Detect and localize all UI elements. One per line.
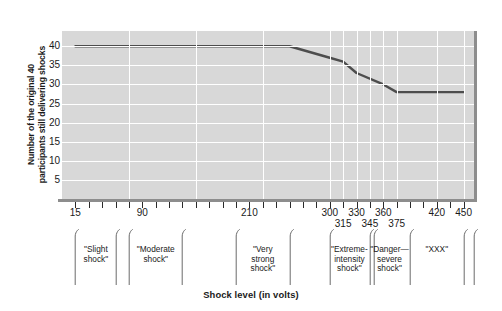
vertical-gridline: [343, 31, 344, 199]
horizontal-gridline: [62, 46, 477, 47]
category-divider: [286, 229, 295, 285]
y-axis-tick-label: 30: [49, 79, 60, 89]
vertical-gridline: [370, 31, 371, 199]
y-axis-tick-label: 20: [49, 118, 60, 128]
category-label: "Moderate shock": [137, 245, 175, 264]
vertical-gridline: [263, 31, 264, 199]
y-axis-title-line1: Number of the original 40: [26, 15, 37, 215]
category-divider: [460, 229, 469, 285]
x-axis-tick-label: 420: [428, 207, 445, 218]
horizontal-gridline: [62, 180, 477, 181]
x-axis-title: Shock level (in volts): [0, 289, 502, 300]
category-divider: [470, 229, 479, 285]
vertical-gridline: [129, 31, 130, 199]
category-divider: [232, 229, 241, 285]
category-label: "XXX": [426, 245, 449, 255]
horizontal-gridline: [62, 142, 477, 143]
y-axis-tick-label: 5: [54, 175, 60, 185]
x-axis-tick-label: 345: [362, 218, 379, 229]
category-divider: [125, 229, 134, 285]
vertical-gridline: [383, 31, 384, 199]
chart-figure: Number of the original 40 participants s…: [0, 0, 502, 311]
x-axis-tick-label: 330: [348, 207, 365, 218]
x-axis-tick-label: 210: [241, 207, 258, 218]
category-label: "Slight shock": [84, 245, 109, 264]
vertical-gridline: [464, 31, 465, 199]
horizontal-gridline: [62, 161, 477, 162]
y-axis-tick-label: 40: [49, 41, 60, 51]
category-divider: [178, 229, 187, 285]
category-band: "Slight shock""Moderate shock""Very stro…: [0, 229, 502, 287]
vertical-gridline: [437, 31, 438, 199]
vertical-gridline: [196, 31, 197, 199]
horizontal-gridline: [62, 123, 477, 124]
x-axis-tick-label: 375: [388, 218, 405, 229]
category-label: "Danger— severe shock": [370, 245, 408, 274]
horizontal-gridline: [62, 65, 477, 66]
vertical-gridline: [357, 31, 358, 199]
horizontal-gridline: [62, 84, 477, 85]
category-divider: [112, 229, 121, 285]
horizontal-gridline: [62, 104, 477, 105]
x-axis-tick-labels: 1590210300315330345360375420450: [0, 207, 502, 231]
y-axis-tick-label: 35: [49, 60, 60, 70]
data-line-series: [62, 31, 477, 199]
vertical-gridline: [397, 31, 398, 199]
x-axis-tick-label: 450: [455, 207, 472, 218]
x-axis-tick-label: 360: [375, 207, 392, 218]
x-axis-tick-label: 15: [70, 207, 81, 218]
y-axis-tick-label: 15: [49, 137, 60, 147]
y-axis-tick-labels: 510152025303540: [36, 30, 60, 206]
category-label: "Very strong shock": [250, 245, 275, 274]
y-axis-tick-label: 10: [49, 156, 60, 166]
y-axis-tick-label: 25: [49, 99, 60, 109]
plot-area: [62, 31, 477, 199]
vertical-gridline: [330, 31, 331, 199]
plot-right-edge: [474, 31, 477, 201]
x-axis-tick-label: 300: [321, 207, 338, 218]
category-divider: [71, 229, 80, 285]
x-axis-tick-label: 315: [335, 218, 352, 229]
x-axis-tick-label: 90: [137, 207, 148, 218]
category-label: "Extreme- intensity shock": [331, 245, 368, 274]
